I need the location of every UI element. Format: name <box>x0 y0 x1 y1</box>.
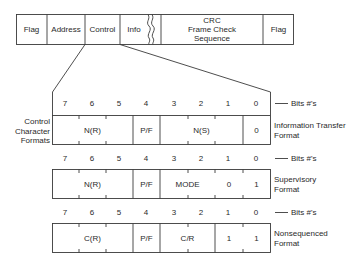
side-label-line-3: Formats <box>0 136 50 146</box>
bit-number: 7 <box>59 154 71 163</box>
crc-line-1: CRC <box>161 16 263 25</box>
format-name-line-2: Format <box>274 185 316 195</box>
format-name-line-2: Format <box>274 239 328 249</box>
bit-number: 2 <box>195 154 207 163</box>
bit-number: 4 <box>140 99 152 108</box>
bit-number: 4 <box>140 208 152 217</box>
control-character-formats-label: Control Character Formats <box>0 117 50 146</box>
crc-line-2: Frame Check <box>161 25 263 34</box>
bit-number: 2 <box>195 99 207 108</box>
bit-number: 7 <box>59 208 71 217</box>
bit-number: 0 <box>250 154 262 163</box>
bit-number: 6 <box>86 208 98 217</box>
bit-number: 1 <box>222 99 234 108</box>
format-name-line-1: Information Transfer <box>274 121 346 131</box>
cell-nr: N(R) <box>52 180 133 189</box>
bit-number: 1 <box>222 208 234 217</box>
bit-number: 6 <box>86 99 98 108</box>
frame-field-info: Info <box>120 25 148 34</box>
cell-nr: N(R) <box>52 126 133 135</box>
bit-number: 4 <box>140 154 152 163</box>
bit-number: 6 <box>86 154 98 163</box>
format-name: Supervisory Format <box>274 175 316 195</box>
cell-bit1: 0 <box>215 180 243 189</box>
format-name-line-1: Supervisory <box>274 175 316 185</box>
format-name: Nonsequenced Format <box>274 229 328 249</box>
bit-number: 5 <box>113 208 125 217</box>
bits-label: Bits #'s <box>291 99 317 108</box>
frame-field-flag-end: Flag <box>263 25 294 34</box>
cell-bit1: 1 <box>215 234 243 243</box>
bit-number: 1 <box>222 154 234 163</box>
bit-number: 0 <box>250 99 262 108</box>
cell-pf: P/F <box>133 234 160 243</box>
cell-bit0: 1 <box>243 234 270 243</box>
bits-label: Bits #'s <box>291 154 317 163</box>
side-label-line-2: Character <box>0 127 50 137</box>
cell-bit0: 1 <box>243 180 270 189</box>
bit-number: 2 <box>195 208 207 217</box>
bit-number: 3 <box>168 154 180 163</box>
frame-field-flag-start: Flag <box>16 25 47 34</box>
crc-line-3: Sequence <box>161 34 263 43</box>
bit-number: 5 <box>113 99 125 108</box>
cell-c-r: C/R <box>160 234 215 243</box>
frame-field-control: Control <box>85 25 120 34</box>
bit-number: 3 <box>168 208 180 217</box>
side-label-line-1: Control <box>0 117 50 127</box>
cell-cr: C(R) <box>52 234 133 243</box>
frame-field-address: Address <box>47 25 85 34</box>
bit-number: 0 <box>250 208 262 217</box>
bits-label: Bits #'s <box>291 208 317 217</box>
cell-ns: N(S) <box>160 126 243 135</box>
cell-pf: P/F <box>133 180 160 189</box>
frame-field-crc: CRC Frame Check Sequence <box>161 16 263 43</box>
bit-number: 5 <box>113 154 125 163</box>
format-name-line-2: Format <box>274 131 346 141</box>
bit-number: 7 <box>59 99 71 108</box>
format-name: Information Transfer Format <box>274 121 346 141</box>
bit-number: 3 <box>168 99 180 108</box>
cell-bit0: 0 <box>243 126 270 135</box>
cell-pf: P/F <box>133 126 160 135</box>
format-name-line-1: Nonsequenced <box>274 229 328 239</box>
cell-mode: MODE <box>160 180 215 189</box>
